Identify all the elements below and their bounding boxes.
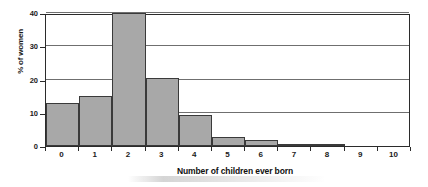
x-tick-label-2: 2 <box>113 151 143 159</box>
x-tick-label-6: 6 <box>246 151 276 159</box>
x-tick-mark-11 <box>410 147 411 151</box>
y-tick-label-40: 40 <box>18 10 38 18</box>
x-tick-mark-5 <box>211 147 212 151</box>
x-tick-mark-2 <box>111 147 112 151</box>
x-tick-label-10: 10 <box>378 151 408 159</box>
x-tick-mark-6 <box>244 147 245 151</box>
bar-3 <box>146 78 179 146</box>
bar-6 <box>245 140 278 146</box>
y-tick-mark-20 <box>40 81 45 82</box>
bar-7 <box>278 144 311 146</box>
bar-1 <box>79 96 112 146</box>
x-tick-label-8: 8 <box>312 151 342 159</box>
x-tick-mark-1 <box>78 147 79 151</box>
x-tick-label-0: 0 <box>47 151 77 159</box>
y-tick-label-20: 20 <box>18 77 38 85</box>
bar-5 <box>212 137 245 146</box>
y-tick-label-30: 30 <box>18 43 38 51</box>
y-tick-mark-10 <box>40 114 45 115</box>
y-tick-mark-0 <box>40 147 45 148</box>
bar-0 <box>46 103 79 146</box>
x-tick-label-5: 5 <box>213 151 243 159</box>
x-tick-mark-8 <box>310 147 311 151</box>
gridline-40 <box>46 12 409 13</box>
y-tick-mark-40 <box>40 14 45 15</box>
x-axis-title: Number of children ever born <box>60 166 410 176</box>
x-tick-mark-9 <box>344 147 345 151</box>
x-tick-mark-7 <box>277 147 278 151</box>
bar-2 <box>112 13 145 146</box>
y-tick-mark-30 <box>40 47 45 48</box>
x-tick-label-1: 1 <box>80 151 110 159</box>
x-tick-mark-3 <box>145 147 146 151</box>
x-tick-label-9: 9 <box>345 151 375 159</box>
histogram-chart: % of women 010203040 012345678910 Number… <box>0 0 428 187</box>
bar-8 <box>311 144 344 146</box>
x-tick-mark-4 <box>178 147 179 151</box>
x-tick-mark-10 <box>377 147 378 151</box>
y-axis-tick-labels: 010203040 <box>12 0 38 187</box>
x-tick-label-3: 3 <box>146 151 176 159</box>
gridline-30 <box>46 45 409 46</box>
y-tick-label-10: 10 <box>18 110 38 118</box>
x-tick-label-4: 4 <box>179 151 209 159</box>
y-tick-label-0: 0 <box>18 143 38 151</box>
scan-artifact <box>128 176 324 182</box>
gridline-20 <box>46 79 409 80</box>
x-tick-label-7: 7 <box>279 151 309 159</box>
x-tick-mark-0 <box>45 147 46 151</box>
plot-area <box>45 14 410 147</box>
bar-4 <box>179 115 212 146</box>
